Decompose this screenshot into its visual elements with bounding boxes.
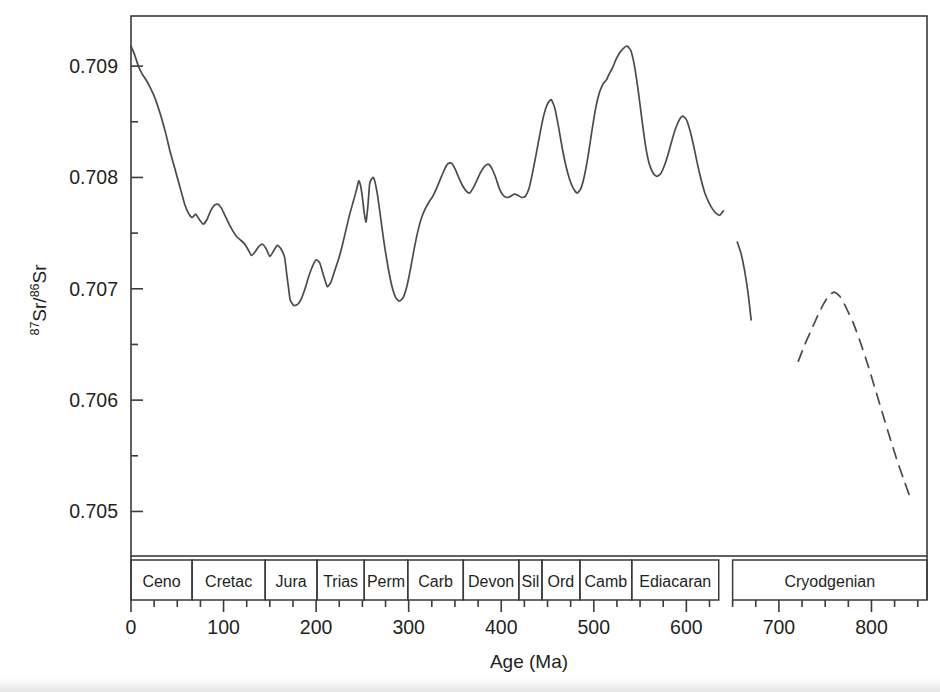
x-axis-tick-label: 200	[300, 616, 333, 638]
x-axis-tick-label: 500	[578, 616, 611, 638]
y-axis-tick-label: 0.709	[69, 55, 118, 77]
period-label: Trias	[323, 573, 358, 590]
period-label: Ediacaran	[639, 573, 711, 590]
x-axis-tick-label: 100	[207, 616, 240, 638]
period-label: Sil	[521, 573, 539, 590]
x-axis-tick-label: 0	[126, 616, 137, 638]
period-label: Devon	[468, 573, 514, 590]
x-axis-title: Age (Ma)	[490, 651, 568, 672]
y-axis-tick-label: 0.706	[69, 389, 118, 411]
period-label: Cryodgenian	[784, 573, 875, 590]
figure-canvas: 0.7050.7060.7070.7080.70987Sr/86Sr010020…	[0, 0, 940, 692]
y-axis-tick-label: 0.705	[69, 500, 118, 522]
period-label: Carb	[418, 573, 453, 590]
plot-frame	[131, 16, 927, 556]
x-axis-tick-label: 300	[392, 616, 425, 638]
data-curve-inferred	[798, 292, 910, 498]
y-axis-title: 87Sr/86Sr	[28, 264, 50, 336]
period-label: Perm	[367, 573, 405, 590]
x-axis-tick-label: 800	[855, 616, 888, 638]
x-axis-tick-label: 600	[670, 616, 703, 638]
period-label: Cretac	[205, 573, 252, 590]
x-axis-tick-label: 400	[485, 616, 518, 638]
period-label: Ord	[548, 573, 575, 590]
period-label: Camb	[584, 573, 627, 590]
period-label: Jura	[276, 573, 307, 590]
strontium-isotope-chart: 0.7050.7060.7070.7080.70987Sr/86Sr010020…	[0, 0, 940, 692]
y-axis-tick-label: 0.708	[69, 166, 118, 188]
x-axis-tick-label: 700	[763, 616, 796, 638]
data-curve-measured-1	[737, 242, 751, 320]
data-curve-measured-0	[131, 46, 723, 306]
y-axis-tick-label: 0.707	[69, 278, 118, 300]
period-label: Ceno	[142, 573, 180, 590]
